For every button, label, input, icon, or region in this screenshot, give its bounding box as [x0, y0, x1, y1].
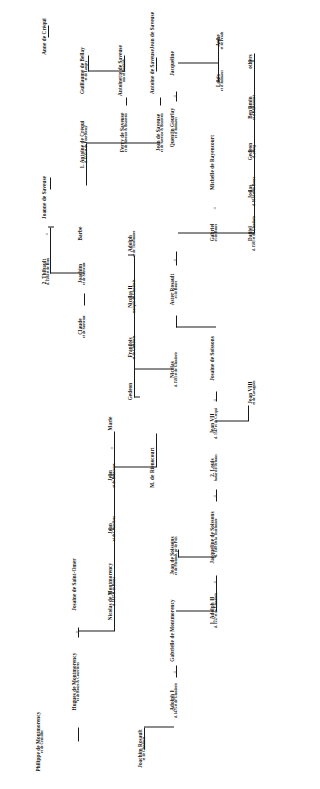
connector-line [216, 575, 217, 611]
connector-line [114, 466, 156, 467]
person-subtitle: et de Sauveuse [83, 305, 87, 347]
person-name: Jacqueline [170, 35, 175, 91]
connector-line [48, 226, 54, 227]
connector-line [156, 57, 157, 71]
connector-line [84, 293, 85, 305]
person-node: Ferry de Saveuse et de Saveuse & Beauvoi… [120, 99, 129, 165]
connector-line [50, 177, 51, 189]
marriage-symbol: = [44, 232, 49, 235]
person-node: Joanne de Saveuse [42, 165, 47, 229]
person-name: Josaine de Saint-Omer [72, 541, 77, 627]
person-node: Marie [108, 403, 113, 443]
person-node: Barbe [78, 215, 83, 251]
person-subtitle: et de Bours [175, 261, 179, 317]
connector-line [176, 315, 177, 327]
person-name: Marie [108, 403, 113, 443]
connector-line [124, 55, 125, 71]
connector-line [248, 405, 249, 421]
connector-line [134, 396, 140, 397]
person-node: Jean de Saveuse [150, 3, 155, 57]
connector-line [122, 142, 160, 143]
person-subtitle: et de Sauveuse [83, 251, 87, 295]
person-node: Jacqueline [170, 35, 175, 91]
person-node: Gedeon [128, 371, 133, 411]
connector-line [178, 232, 216, 233]
person-name: Michelle de Rayencourt [210, 121, 215, 203]
connector-line [248, 190, 254, 191]
connector-line [216, 391, 217, 401]
person-node: Francois et de Glanderie [128, 323, 137, 371]
connector-line [216, 80, 220, 81]
connector-line [178, 549, 179, 557]
person-name: Gedeon [128, 371, 133, 411]
connector-line [254, 53, 255, 233]
person-node: Anne de Créqui [42, 5, 47, 67]
person-subtitle: et de Cavagnies [253, 363, 257, 421]
person-node: Josaine de Soissons [210, 321, 215, 395]
connector-line [248, 60, 254, 61]
person-node: Michelle de Rayencourt [210, 121, 215, 203]
connector-line [88, 70, 124, 71]
connector-line [176, 665, 177, 677]
connector-line [216, 38, 220, 39]
connector-line [126, 97, 127, 105]
person-node: Jean VIII et de Cavagnies [248, 363, 257, 421]
person-node: Hugues de Montmorency et de Bours & Cour… [72, 635, 81, 727]
connector-line [218, 39, 219, 81]
connector-line [108, 592, 114, 593]
person-name: Barbe [78, 215, 83, 251]
person-name: Anne de Créqui [42, 5, 47, 67]
person-name: Josaine de Soissons [210, 321, 215, 395]
connector-line [114, 431, 115, 631]
person-node: 2. Louis batard d'Orleans [210, 443, 219, 491]
connector-line [88, 55, 89, 71]
person-node: Gabrielle de Montmorency [170, 593, 175, 667]
person-name: Gabrielle de Montmorency [170, 593, 175, 667]
connector-line [176, 91, 177, 101]
connector-line [156, 433, 157, 467]
connector-line [176, 610, 214, 611]
connector-line [108, 474, 114, 475]
person-node: Adolph et de Tisselonnee [128, 217, 137, 269]
connector-line [144, 727, 145, 749]
person-name: Joanne de Saveuse [42, 165, 47, 229]
connector-line [248, 150, 254, 151]
connector-line [178, 62, 218, 63]
person-node: Joachim Rosault et de Glanderie [138, 713, 147, 783]
person-subtitle: et de Bours & Courrières [77, 635, 81, 727]
connector-line [216, 420, 248, 421]
person-node: Jacqueline de Soissons d. 1569 De la Tis… [210, 497, 219, 577]
person-node: Nicolas de Montmorency d. 1437 et de Bou… [108, 553, 117, 629]
connector-line [176, 326, 216, 327]
person-node: Jean VII d. 1547 et de Crequi [210, 401, 219, 445]
connector-line [78, 727, 79, 741]
person-subtitle: et de Croisilles [41, 697, 45, 785]
person-node: 1. Antoine de Créqui d. 1535 et de Pont-… [80, 111, 89, 177]
family-tree-chart: Philippe de Montmorency et de Croisilles… [20, 0, 280, 789]
connector-line [160, 97, 161, 105]
person-subtitle: d. 1583 et de Glanderie [175, 345, 179, 393]
connector-line [134, 255, 135, 397]
person-node: Quentin Gourlay et d'Animaux [170, 97, 179, 157]
connector-line [48, 25, 49, 37]
person-node: Adolph I d. 1475 et de Glanderie [170, 673, 179, 727]
connector-line [128, 254, 134, 255]
person-subtitle: et de Saveuse & Beauvois [125, 99, 129, 165]
connector-line [50, 272, 84, 273]
person-subtitle: d. 1569 De la Tisselonnee [215, 497, 219, 577]
person-subtitle: et d'Animaux [221, 59, 225, 101]
connector-line [128, 296, 134, 297]
connector-line [248, 106, 254, 107]
person-node: Aster Rosault et de Bours [170, 261, 179, 317]
person-subtitle: batard d'Orleans [215, 443, 219, 491]
connector-line [128, 344, 134, 345]
person-subtitle: et de Pende [221, 19, 225, 61]
person-subtitle: d. 1475 et de Glanderie [175, 673, 179, 727]
marriage-symbol: = [212, 206, 217, 209]
connector-line [108, 528, 114, 529]
connector-line [78, 630, 114, 631]
person-subtitle: et d'Animaux [175, 97, 179, 157]
connector-line [178, 556, 216, 557]
connector-line [176, 251, 177, 265]
person-node: Josaine de Saint-Omer [72, 541, 77, 627]
